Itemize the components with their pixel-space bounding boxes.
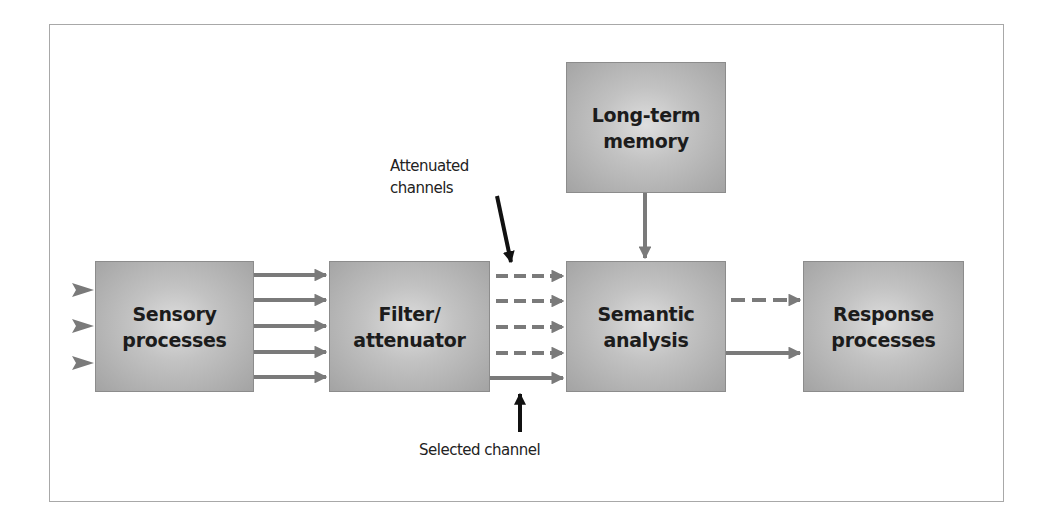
attenuated-channels-label: Attenuated channels xyxy=(390,155,469,199)
long-term-memory-label: Long-term memory xyxy=(592,102,701,154)
filter-attenuator-label: Filter/ attenuator xyxy=(353,301,465,353)
sensory-processes-box: Sensory processes xyxy=(95,261,254,392)
attenuated-pointer-arrow xyxy=(497,196,511,262)
sensory-to-filter-arrows xyxy=(254,275,326,377)
semantic-analysis-box: Semantic analysis xyxy=(566,261,726,392)
sensory-processes-label: Sensory processes xyxy=(122,301,226,353)
input-arrows xyxy=(72,283,94,370)
response-processes-box: Response processes xyxy=(803,261,964,392)
semantic-analysis-label: Semantic analysis xyxy=(597,301,694,353)
attenuated-channel-arrows xyxy=(496,276,563,353)
selected-channel-label: Selected channel xyxy=(419,439,540,461)
filter-attenuator-box: Filter/ attenuator xyxy=(329,261,490,392)
response-processes-label: Response processes xyxy=(831,301,935,353)
long-term-memory-box: Long-term memory xyxy=(566,62,726,193)
